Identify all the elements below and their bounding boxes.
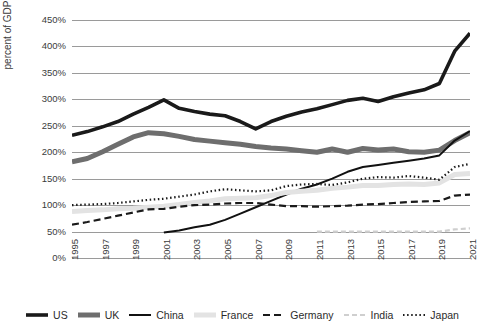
legend-label: France [221,310,254,321]
y-axis-tick-label: 400% [18,41,66,51]
x-axis-tick-label: 2013 [345,239,356,260]
legend-label: Japan [430,310,459,321]
x-axis-tick-label: 2009 [283,239,294,260]
legend-item-china[interactable]: China [128,309,183,321]
y-axis-tick-label: 0% [18,253,66,263]
legend-swatch-india [343,309,367,321]
x-axis-tick-label: 2001 [161,239,172,260]
chart-legend: USUKChinaFranceGermanyIndiaJapan [0,305,484,325]
legend-label: US [53,310,68,321]
legend-label: Germany [290,310,333,321]
legend-label: China [156,310,183,321]
legend-item-japan[interactable]: Japan [402,309,459,321]
y-axis-tick-label: 250% [18,121,66,131]
legend-item-uk[interactable]: UK [77,309,120,321]
y-axis-title: percent of GDP [2,0,13,95]
line-series-uk [72,133,470,162]
legend-swatch-uk [77,309,101,321]
line-series-france [72,173,470,211]
y-axis-tick-label: 200% [18,147,66,157]
y-axis-tick-label: 300% [18,94,66,104]
x-axis-tick-label: 1995 [69,239,80,260]
x-axis-tick-label: 1997 [100,239,111,260]
legend-label: India [371,310,394,321]
x-axis-tick-label: 2011 [314,240,325,260]
x-axis-tick-label: 2021 [467,239,478,260]
y-axis-tick-label: 350% [18,68,66,78]
legend-item-france[interactable]: France [193,309,254,321]
legend-swatch-japan [402,309,426,321]
line-series-us [72,33,470,135]
x-axis-tick-label: 2015 [375,239,386,260]
legend-swatch-france [193,309,217,321]
line-series-china [164,131,470,233]
y-axis-tick-label: 100% [18,200,66,210]
legend-swatch-us [25,309,49,321]
x-axis-tick-label: 2005 [222,239,233,260]
y-axis-tick-label: 150% [18,174,66,184]
x-axis-tick-label: 2019 [436,239,447,260]
legend-item-india[interactable]: India [343,309,394,321]
chart-container: percent of GDP 450%400%350%300%250%200%1… [0,0,484,330]
x-axis-tick-labels: 1995199719992001200320052007200920112013… [72,258,470,302]
series-lines [72,20,470,258]
x-axis-tick-label: 2017 [406,239,417,260]
x-axis-tick-label: 2003 [191,239,202,260]
x-axis-tick-label: 2007 [253,239,264,260]
legend-swatch-germany [262,309,286,321]
x-axis-tick-label: 1999 [130,239,141,260]
legend-swatch-china [128,309,152,321]
y-axis-tick-label: 450% [18,15,66,25]
legend-item-germany[interactable]: Germany [262,309,333,321]
legend-label: UK [105,310,120,321]
plot-area [72,20,470,258]
y-axis-tick-label: 50% [18,227,66,237]
legend-item-us[interactable]: US [25,309,68,321]
y-axis-tick-labels: 450%400%350%300%250%200%150%100%50%0% [14,0,66,330]
line-series-india [317,228,470,231]
